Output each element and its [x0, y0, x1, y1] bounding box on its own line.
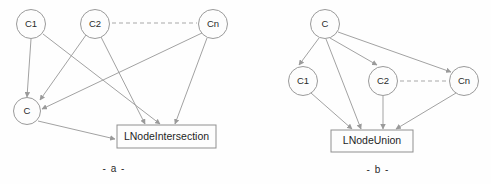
result-boxes-layer: LNodeIntersectionLNodeUnion [117, 125, 413, 152]
node-b-cn[interactable]: Cn [450, 67, 479, 96]
node-label-b-c: C [322, 18, 329, 29]
node-label-b-c2: C2 [377, 75, 389, 86]
node-a-c1[interactable]: C1 [17, 10, 46, 39]
node-label-a-c: C [24, 105, 31, 116]
result-box-label-a-box: LNodeIntersection [124, 130, 209, 142]
node-b-c2[interactable]: C2 [369, 67, 398, 96]
edge-a-c2-to-c [40, 35, 86, 100]
node-b-c1[interactable]: C1 [289, 67, 318, 96]
edge-a-cn-to-lnodeintersection [175, 38, 207, 124]
figure-root: C1C2CnCCC1C2Cn LNodeIntersectionLNodeUni… [0, 0, 491, 184]
result-box-label-b-box: LNodeUnion [343, 134, 402, 146]
node-label-b-c1: C1 [297, 75, 309, 86]
panel-caption-b: - b - [367, 164, 390, 175]
result-box-b-box[interactable]: LNodeUnion [331, 130, 413, 152]
captions-layer: - a -- b - [103, 163, 390, 175]
edge-b-c1-to-lnodeunion [311, 93, 352, 129]
edge-a-cn-to-c [42, 33, 202, 109]
edge-b-c-to-c2 [330, 38, 377, 65]
node-b-c[interactable]: C [311, 10, 340, 39]
node-a-cn[interactable]: Cn [199, 10, 228, 39]
node-a-c2[interactable]: C2 [81, 10, 110, 39]
panel-caption-a: - a - [103, 163, 126, 174]
node-label-a-c2: C2 [89, 18, 101, 29]
result-box-a-box[interactable]: LNodeIntersection [117, 125, 216, 148]
edge-b-cn-to-lnodeunion [396, 93, 456, 129]
nodes-layer: C1C2CnCCC1C2Cn [14, 10, 479, 125]
node-label-a-cn: Cn [207, 18, 219, 29]
diagram-canvas: C1C2CnCCC1C2Cn LNodeIntersectionLNodeUni… [0, 0, 491, 184]
node-a-c[interactable]: C [14, 98, 41, 125]
edge-a-c1-to-c [27, 39, 31, 97]
edge-b-c-to-c1 [299, 38, 319, 65]
edge-a-c1-to-lnodeintersection [43, 34, 160, 124]
edge-a-c-to-lnodeintersection [38, 121, 115, 139]
node-label-a-c1: C1 [25, 18, 37, 29]
edge-a-c2-to-lnodeintersection [101, 37, 145, 124]
node-label-b-cn: Cn [458, 75, 470, 86]
